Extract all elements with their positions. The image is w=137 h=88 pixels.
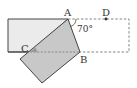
label-b: B (80, 54, 87, 65)
point-d-dot (105, 18, 108, 21)
angle-label: 70° (77, 24, 93, 34)
angle-arc-a (71, 19, 76, 27)
label-c: C (21, 43, 29, 54)
geometry-diagram: A D C B 70° (0, 0, 137, 88)
label-d: D (102, 7, 110, 18)
label-a: A (63, 7, 72, 18)
